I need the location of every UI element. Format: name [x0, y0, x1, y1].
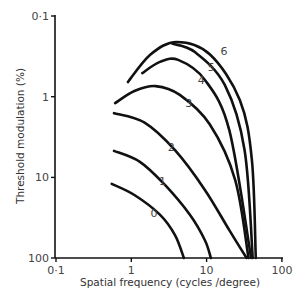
curve-label-2: 2 [168, 141, 175, 154]
curve-label-6: 6 [220, 45, 227, 58]
curve-label-3: 3 [185, 97, 192, 110]
y-ticks: 0·1110100 [28, 10, 55, 265]
curve-label-5: 5 [208, 61, 215, 74]
curve-1 [114, 151, 211, 258]
x-tick-label: 100 [271, 264, 292, 277]
chart: 0·1110100 0·1110100 0123456 Spatial freq… [0, 0, 308, 304]
y-tick-label: 10 [35, 171, 49, 184]
y-tick-label: 1 [42, 91, 49, 104]
curve-3 [115, 86, 248, 258]
y-axis-label: Threshold modulation (%) [14, 68, 26, 205]
curves [112, 42, 256, 258]
curve-label-1: 1 [159, 175, 166, 188]
curve-5 [172, 44, 252, 258]
y-tick-label: 100 [28, 252, 49, 265]
x-axis-label: Spatial frequency (cycles /degree) [80, 276, 260, 288]
x-ticks: 0·1110100 [47, 258, 292, 277]
y-tick-label: 0·1 [32, 10, 50, 23]
curve-label-0: 0 [150, 207, 157, 220]
x-tick-label: 0·1 [47, 264, 65, 277]
curve-label-4: 4 [198, 74, 205, 87]
curve-2 [114, 113, 247, 258]
curve-6 [128, 42, 256, 258]
